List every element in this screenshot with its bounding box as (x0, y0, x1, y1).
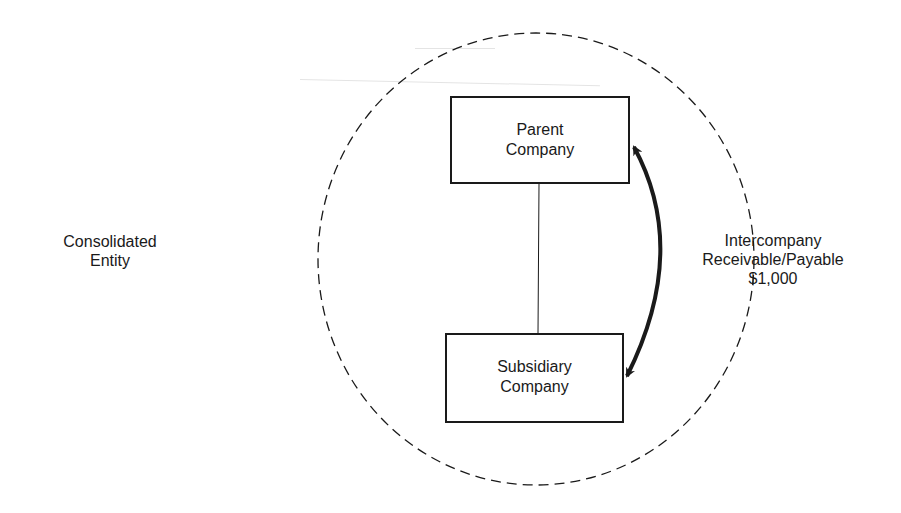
intercompany-label-line-1: Intercompany (688, 231, 858, 250)
subsidiary-company-label-line-2: Company (446, 377, 623, 397)
intercompany-arrow (627, 147, 660, 376)
intercompany-label-line-2: Receivable/Payable (688, 250, 858, 269)
parent-company-label-line-1: Parent (451, 120, 629, 140)
parent-company-label: Parent Company (451, 120, 629, 160)
consolidated-entity-label-line-1: Consolidated (40, 232, 180, 251)
consolidated-entity-label: Consolidated Entity (40, 232, 180, 270)
parent-company-label-line-2: Company (451, 140, 629, 160)
consolidated-entity-label-line-2: Entity (40, 251, 180, 270)
subsidiary-company-label: Subsidiary Company (446, 357, 623, 397)
intercompany-label: Intercompany Receivable/Payable $1,000 (688, 231, 858, 288)
ownership-connector-line (538, 184, 539, 333)
subsidiary-company-label-line-1: Subsidiary (446, 357, 623, 377)
intercompany-amount: $1,000 (688, 269, 858, 288)
